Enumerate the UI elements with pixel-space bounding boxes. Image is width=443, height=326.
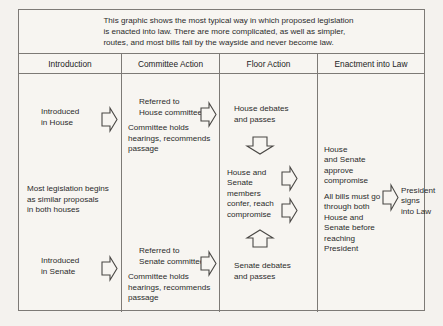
text-house-committee-holds: Committee holds hearings, recommends pas… <box>128 123 210 155</box>
column-header-row: Introduction Committee Action Floor Acti… <box>19 54 424 74</box>
column-header-floor-action: Floor Action <box>220 54 318 73</box>
arrow-senate-floor-to-conference <box>246 229 274 248</box>
diagram-caption: This graphic shows the most typical way … <box>19 10 424 54</box>
caption-text: This graphic shows the most typical way … <box>89 15 353 49</box>
arrow-house-floor-to-conference <box>246 136 274 155</box>
column-header-committee-action: Committee Action <box>122 54 220 73</box>
text-house-and-senate-approve: House and Senate approve compromise <box>324 145 368 187</box>
text-president-signs-into-law: President signs into Law <box>401 186 435 217</box>
text-house-debates-and-passes: House debates and passes <box>234 104 288 125</box>
text-introduced-in-senate: Introduced in Senate <box>41 256 79 277</box>
text-referred-to-house-committee: Referred to House committee <box>139 97 202 118</box>
arrow-conference-to-approve <box>281 166 298 191</box>
text-referred-to-senate-committee: Referred to Senate committee <box>139 246 204 267</box>
text-most-legislation-begins: Most legislation begins as similar propo… <box>27 184 109 216</box>
column-enactment-into-law: House and Senate approve compromise All … <box>318 74 424 312</box>
legislation-flow-diagram: This graphic shows the most typical way … <box>18 9 425 311</box>
column-introduction: Introduced in House Most legislation beg… <box>19 74 122 312</box>
arrow-to-president <box>382 184 399 211</box>
text-senate-committee-holds: Committee holds hearings, recommends pas… <box>128 272 210 304</box>
diagram-body: Introduced in House Most legislation beg… <box>19 74 424 312</box>
column-header-enactment-into-law: Enactment into Law <box>318 54 424 73</box>
arrow-house-to-committee <box>101 107 118 132</box>
column-floor-action: House debates and passes House and Senat… <box>220 74 318 312</box>
text-introduced-in-house: Introduced in House <box>41 107 79 128</box>
text-senate-debates-and-passes: Senate debates and passes <box>234 261 291 282</box>
arrow-senate-to-committee <box>101 256 118 281</box>
text-conference-committee: House and Senate members confer, reach c… <box>227 168 274 220</box>
arrow-conference-to-all-bills <box>281 198 298 223</box>
arrow-committee-to-house-floor <box>200 102 217 127</box>
text-all-bills-must-go: All bills must go through both House and… <box>324 192 380 254</box>
arrow-committee-to-senate-floor <box>200 251 217 276</box>
column-committee-action: Referred to House committee Committee ho… <box>122 74 220 312</box>
column-header-introduction: Introduction <box>19 54 122 73</box>
